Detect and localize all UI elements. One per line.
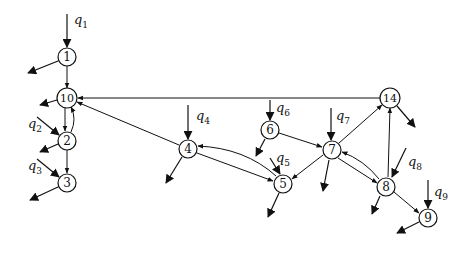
- node-label: 10: [60, 92, 74, 105]
- outflow-arrows: [28, 61, 419, 233]
- node-label: 5: [279, 177, 287, 191]
- outflow-arrow-4: [166, 157, 182, 183]
- input-label-q4: q4: [196, 108, 210, 126]
- edge-8-7: [342, 152, 379, 179]
- outflow-arrow-14: [397, 106, 415, 127]
- node-6[interactable]: 6: [261, 121, 279, 139]
- node-1[interactable]: 1: [58, 48, 76, 66]
- node-label: 7: [328, 143, 336, 157]
- network-flow-diagram: 1 10 2 3 4 5 6 7 14 8 9 q1 q2 q3 q4 q5 q…: [0, 0, 469, 253]
- nodes: 1 10 2 3 4 5 6 7 14 8 9: [57, 48, 437, 227]
- input-label-q9: q9: [434, 184, 448, 202]
- node-10[interactable]: 10: [57, 88, 77, 108]
- outflow-arrow-5: [268, 193, 279, 217]
- node-4[interactable]: 4: [179, 140, 197, 158]
- input-arrow-q8: [392, 148, 406, 177]
- input-label-q5: q5: [276, 150, 290, 168]
- edge-4-5: [197, 153, 273, 181]
- input-label-q3: q3: [28, 158, 42, 176]
- edge-8-9: [394, 192, 419, 213]
- input-label-q1: q1: [74, 12, 88, 30]
- outflow-arrow-7: [323, 160, 329, 191]
- node-label: 2: [63, 134, 71, 148]
- input-label-q8: q8: [408, 154, 422, 172]
- edge-6-7: [279, 133, 322, 147]
- outflow-arrow-9: [397, 222, 419, 233]
- node-label: 9: [424, 211, 432, 225]
- node-2[interactable]: 2: [58, 132, 76, 150]
- outflow-arrow-10: [40, 100, 57, 105]
- node-label: 8: [382, 180, 390, 194]
- outflow-arrow-8: [372, 196, 380, 214]
- node-7[interactable]: 7: [323, 141, 341, 159]
- node-label: 1: [63, 50, 71, 64]
- edge-7-5: [292, 155, 323, 179]
- edges: [65, 66, 419, 213]
- outflow-arrow-3: [30, 187, 58, 200]
- node-9[interactable]: 9: [419, 209, 437, 227]
- node-label: 14: [383, 92, 397, 105]
- outflow-arrow-1: [28, 61, 58, 73]
- outflow-arrow-6: [256, 139, 265, 156]
- node-label: 6: [266, 123, 274, 137]
- node-8[interactable]: 8: [377, 178, 395, 196]
- input-label-q7: q7: [336, 108, 350, 126]
- node-label: 3: [63, 176, 71, 190]
- edge-5-4: [198, 146, 276, 176]
- edge-4-10: [77, 102, 179, 145]
- edge-8-14: [388, 108, 390, 177]
- edge-2-10: [71, 107, 74, 132]
- node-5[interactable]: 5: [274, 175, 292, 193]
- outflow-arrow-2: [40, 144, 58, 152]
- input-arrows: [37, 14, 428, 208]
- node-14[interactable]: 14: [380, 88, 400, 108]
- node-label: 4: [184, 142, 192, 156]
- node-3[interactable]: 3: [58, 174, 76, 192]
- input-label-q6: q6: [276, 100, 290, 118]
